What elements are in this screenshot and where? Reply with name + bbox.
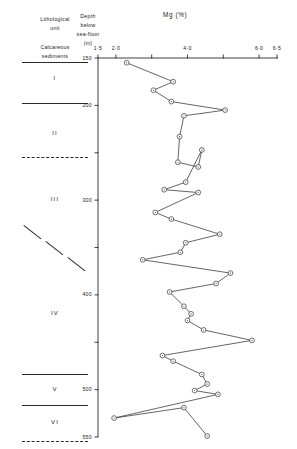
data-point-marker: [171, 359, 176, 364]
data-point-marker: [216, 392, 221, 397]
data-point-marker: [199, 372, 204, 377]
mg-depth-plot: [0, 0, 297, 449]
data-point-marker: [171, 79, 176, 84]
x-tick-label: 6·0: [255, 45, 263, 52]
data-point-marker: [175, 160, 180, 165]
y-tick-label: 300: [82, 197, 92, 204]
y-tick-label: 500: [82, 386, 92, 393]
data-point-marker: [182, 405, 187, 410]
data-point-marker: [185, 318, 190, 323]
mg-series-line: [114, 63, 252, 436]
data-point-marker: [182, 113, 187, 118]
x-tick-label: 2·0: [112, 45, 120, 52]
data-point-marker: [214, 281, 219, 286]
data-point-marker: [169, 217, 174, 222]
data-point-marker: [250, 338, 255, 343]
y-tick-label: 550: [82, 434, 92, 441]
data-point-marker: [192, 388, 197, 393]
data-point-marker: [162, 187, 167, 192]
data-point-marker: [228, 271, 233, 276]
data-point-marker: [160, 353, 165, 358]
data-point-marker: [196, 165, 201, 170]
data-point-marker: [199, 148, 204, 153]
y-tick-label: 400: [82, 291, 92, 298]
x-tick-label: 4·0: [183, 45, 191, 52]
data-point-marker: [183, 240, 188, 245]
x-tick-label: 1·5: [94, 45, 102, 52]
data-point-marker: [169, 99, 174, 104]
data-point-marker: [205, 382, 210, 387]
data-point-marker: [140, 257, 145, 262]
x-tick-label: 6·5: [273, 45, 281, 52]
data-point-marker: [205, 434, 210, 439]
y-tick-label: 150: [82, 55, 92, 62]
data-point-marker: [189, 311, 194, 316]
y-tick-label: 200: [82, 102, 92, 109]
data-point-marker: [112, 416, 117, 421]
data-point-marker: [167, 290, 172, 295]
data-point-marker: [183, 180, 188, 185]
data-point-marker: [178, 250, 183, 255]
data-point-marker: [151, 88, 156, 93]
data-point-marker: [124, 60, 129, 65]
data-point-marker: [177, 134, 182, 139]
data-point-marker: [196, 190, 201, 195]
data-point-marker: [201, 328, 206, 333]
data-point-marker: [153, 210, 158, 215]
data-point-marker: [182, 304, 187, 309]
data-point-marker: [217, 232, 222, 237]
data-point-marker: [223, 108, 228, 113]
